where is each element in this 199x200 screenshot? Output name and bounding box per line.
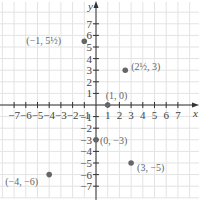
y-tick-label: −6 (80, 169, 92, 181)
data-point (105, 102, 111, 108)
data-point (122, 67, 128, 73)
x-tick-label: 4 (140, 109, 146, 121)
x-tick-label: −3 (55, 109, 67, 121)
point-label: (−4, −6) (5, 176, 38, 188)
grid (0, 2, 199, 198)
x-tick-label: −2 (67, 109, 79, 121)
x-tick-label: 7 (175, 109, 181, 121)
x-tick-label: 3 (128, 109, 134, 121)
y-tick-label: −4 (80, 145, 92, 157)
point-label: (3, −5) (137, 162, 164, 174)
x-axis-label: x (192, 107, 198, 119)
y-tick-label: 4 (87, 53, 93, 65)
data-point (82, 38, 88, 44)
point-label: (1, 0) (106, 90, 128, 102)
x-tick-label: −6 (20, 109, 32, 121)
y-tick-label: −1 (80, 111, 92, 123)
x-tick-label: 6 (163, 109, 169, 121)
x-tick-label: −5 (32, 109, 44, 121)
x-tick-label: −4 (43, 109, 55, 121)
y-axis-label: y (87, 0, 93, 12)
x-tick-label: 2 (117, 109, 123, 121)
x-tick-label: 1 (105, 109, 111, 121)
x-tick-label: 5 (152, 109, 158, 121)
y-tick-label: −3 (80, 134, 92, 146)
y-tick-label: −5 (80, 157, 92, 169)
y-tick-label: 2 (87, 76, 93, 88)
axes: xy (0, 0, 199, 200)
data-point (46, 172, 52, 178)
y-axis-arrow-icon (94, 1, 99, 8)
point-label: (0, −3) (100, 135, 127, 147)
y-tick-label: 1 (87, 87, 93, 99)
y-tick-label: 6 (87, 29, 93, 41)
y-tick-label: 7 (87, 18, 93, 30)
coordinate-plane: xy −7−6−5−4−3−2−11234567−7−6−5−4−3−2−112… (0, 0, 199, 200)
point-label: (2½, 3) (131, 61, 160, 73)
y-tick-label: 3 (87, 64, 93, 76)
data-point (93, 137, 99, 143)
x-tick-label: −7 (8, 109, 20, 121)
point-label: (−1, 5½) (26, 35, 61, 47)
data-point (128, 160, 134, 166)
y-tick-label: −2 (80, 122, 92, 134)
y-tick-label: 5 (87, 41, 93, 53)
y-tick-label: −7 (80, 180, 92, 192)
